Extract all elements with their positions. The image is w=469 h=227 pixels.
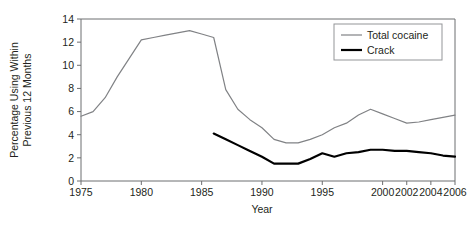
y-axis-ticks: 02468101214 xyxy=(62,13,81,187)
y-axis-title-line2: Previous 12 Months xyxy=(21,54,33,147)
y-tick-label: 2 xyxy=(68,152,74,164)
y-tick-label: 6 xyxy=(68,105,74,117)
y-tick-label: 4 xyxy=(68,129,74,141)
y-axis-title-line1: Percentage Using Within xyxy=(8,42,20,158)
chart-legend: Total cocaineCrack xyxy=(334,24,442,60)
x-tick-label: 1990 xyxy=(250,186,274,198)
x-axis-ticks: 197519801985199019952000200220042006 xyxy=(69,181,467,198)
x-tick-label: 2000 xyxy=(371,186,395,198)
x-tick-label: 1980 xyxy=(130,186,154,198)
cocaine-crack-line-chart: 0246810121419751980198519901995200020022… xyxy=(0,0,469,227)
y-tick-label: 8 xyxy=(68,82,74,94)
y-tick-label: 0 xyxy=(68,175,74,187)
x-tick-label: 1985 xyxy=(190,186,214,198)
chart-canvas: 0246810121419751980198519901995200020022… xyxy=(0,0,469,227)
x-axis-title: Year xyxy=(251,203,273,215)
series-line-crack xyxy=(214,134,455,164)
y-tick-label: 10 xyxy=(62,59,74,71)
x-tick-label: 1975 xyxy=(69,186,93,198)
legend-label: Crack xyxy=(367,44,395,56)
y-tick-label: 14 xyxy=(62,13,74,25)
x-tick-label: 2006 xyxy=(443,186,467,198)
y-tick-label: 12 xyxy=(62,36,74,48)
x-tick-label: 1995 xyxy=(311,186,335,198)
legend-label: Total cocaine xyxy=(367,29,428,41)
x-tick-label: 2002 xyxy=(395,186,419,198)
x-tick-label: 2004 xyxy=(419,186,443,198)
y-axis-title: Percentage Using WithinPrevious 12 Month… xyxy=(8,42,33,158)
